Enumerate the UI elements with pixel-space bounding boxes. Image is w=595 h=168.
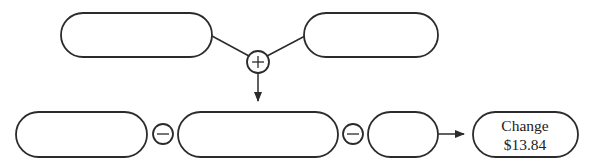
bottom-box-1	[16, 112, 147, 157]
minus-icon	[343, 124, 363, 144]
bottom-box-3	[368, 112, 438, 157]
result-value: $13.84	[504, 136, 547, 153]
connector-top-left	[212, 36, 249, 56]
bottom-box-2	[178, 112, 338, 157]
connector-top-right	[267, 36, 305, 56]
top-left-box	[61, 13, 212, 57]
diagram-canvas: Change $13.84	[0, 0, 595, 168]
plus-icon	[247, 51, 269, 73]
minus-icon	[153, 124, 173, 144]
top-right-box	[304, 13, 438, 57]
result-label: Change	[501, 117, 548, 134]
